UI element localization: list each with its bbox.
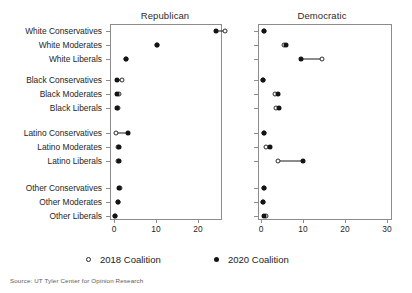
legend: 2018 Coalition 2020 Coalition	[0, 251, 412, 271]
y-axis-tick	[254, 31, 258, 32]
y-axis-tick	[254, 147, 258, 148]
dumbbell-connector	[278, 161, 303, 162]
x-axis-tick	[261, 220, 262, 223]
data-point-2020	[261, 214, 266, 219]
y-axis-label: White Conservatives	[25, 27, 102, 36]
y-axis-label: Other Conservatives	[26, 184, 102, 193]
y-axis-tick	[106, 59, 110, 60]
y-axis-tick	[106, 108, 110, 109]
y-axis-label: Other Liberals	[49, 212, 102, 221]
data-point-2020	[275, 92, 280, 97]
y-axis-label: White Liberals	[49, 55, 102, 64]
data-point-2020	[284, 43, 289, 48]
panel-title-democratic: Democratic	[258, 10, 386, 21]
data-point-2020	[115, 78, 120, 83]
x-axis-tick-label: 0	[259, 224, 264, 234]
x-axis-tick-label: 0	[112, 224, 117, 234]
data-point-2018	[113, 131, 118, 136]
y-axis-tick	[254, 59, 258, 60]
data-point-2018	[119, 78, 124, 83]
filled-circle-icon	[214, 257, 219, 262]
plot-panel-republican	[110, 24, 222, 220]
y-axis-tick	[254, 108, 258, 109]
data-point-2020	[116, 159, 121, 164]
plot-panel-democratic	[258, 24, 392, 220]
data-point-2020	[116, 145, 121, 150]
x-axis-tick	[303, 220, 304, 223]
y-axis-tick	[106, 31, 110, 32]
data-point-2018	[222, 29, 227, 34]
x-axis-tick	[345, 220, 346, 223]
y-axis-label: Black Liberals	[50, 104, 102, 113]
source-note: Source: UT Tyler Center for Opinion Rese…	[10, 277, 143, 284]
data-point-2020	[154, 43, 159, 48]
y-axis-tick	[106, 202, 110, 203]
y-axis-tick	[254, 202, 258, 203]
data-point-2020	[261, 131, 266, 136]
data-point-2020	[114, 106, 119, 111]
y-axis-tick	[106, 147, 110, 148]
x-axis-tick	[156, 220, 157, 223]
x-axis-tick	[198, 220, 199, 223]
y-axis-tick	[106, 80, 110, 81]
y-axis-tick	[254, 45, 258, 46]
data-point-2020	[125, 131, 130, 136]
data-point-2020	[117, 186, 122, 191]
data-point-2020	[301, 159, 306, 164]
data-point-2020	[123, 57, 128, 62]
data-point-2020	[115, 200, 120, 205]
y-axis-tick	[106, 133, 110, 134]
data-point-2020	[261, 200, 266, 205]
y-axis-tick	[106, 188, 110, 189]
y-axis-label: Black Moderates	[40, 90, 102, 99]
open-circle-icon	[86, 257, 91, 262]
x-axis-tick-label: 10	[298, 224, 307, 234]
data-point-2018	[275, 159, 280, 164]
y-axis-tick	[254, 94, 258, 95]
y-axis-tick	[106, 216, 110, 217]
data-point-2020	[261, 29, 266, 34]
legend-item-2020: 2020 Coalition	[214, 254, 289, 265]
y-axis-label: White Moderates	[39, 41, 102, 50]
data-point-2020	[112, 214, 117, 219]
data-point-2020	[115, 92, 120, 97]
data-point-2020	[261, 78, 266, 83]
x-axis-tick	[387, 220, 388, 223]
x-axis-tick	[114, 220, 115, 223]
x-axis-tick-label: 20	[340, 224, 349, 234]
data-point-2020	[276, 106, 281, 111]
x-axis-tick-label: 10	[151, 224, 160, 234]
legend-item-2018: 2018 Coalition	[86, 254, 161, 265]
legend-label-2018: 2018 Coalition	[100, 254, 161, 265]
y-axis-label: Latino Conservatives	[24, 129, 102, 138]
y-axis-tick	[254, 133, 258, 134]
y-axis-label: Latino Moderates	[37, 143, 102, 152]
figure-root: Republican Democratic White Conservative…	[0, 0, 412, 293]
y-axis-tick	[254, 216, 258, 217]
data-point-2020	[261, 186, 266, 191]
y-axis-label: Black Conservatives	[26, 76, 102, 85]
x-axis-tick-label: 30	[382, 224, 391, 234]
data-point-2020	[214, 29, 219, 34]
legend-label-2020: 2020 Coalition	[228, 254, 289, 265]
data-point-2018	[319, 57, 324, 62]
data-point-2020	[268, 145, 273, 150]
y-axis-tick	[106, 94, 110, 95]
y-axis-tick	[106, 45, 110, 46]
y-axis-label: Other Moderates	[39, 198, 102, 207]
x-axis-tick-label: 20	[193, 224, 202, 234]
y-axis-tick	[254, 80, 258, 81]
y-axis-tick	[106, 161, 110, 162]
y-axis-label: Latino Liberals	[48, 157, 102, 166]
panel-title-republican: Republican	[110, 10, 220, 21]
y-axis-tick	[254, 161, 258, 162]
data-point-2020	[298, 57, 303, 62]
y-axis-tick	[254, 188, 258, 189]
